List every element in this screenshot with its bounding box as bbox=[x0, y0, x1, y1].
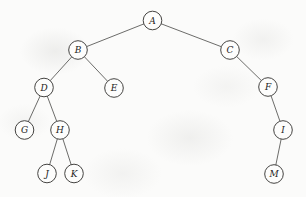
node-label-g: G bbox=[21, 125, 28, 135]
node-label-h: H bbox=[55, 125, 64, 135]
edge-layer bbox=[28, 24, 281, 165]
tree-node-c: C bbox=[221, 41, 240, 60]
tree-edge-b-d bbox=[50, 57, 72, 81]
tree-edge-d-h bbox=[47, 96, 56, 121]
tree-node-j: J bbox=[38, 164, 57, 183]
tree-edge-i-m bbox=[276, 139, 281, 165]
tree-edge-d-g bbox=[28, 96, 40, 122]
node-layer: ABCDEFGHIJKM bbox=[15, 11, 292, 183]
tree-node-b: B bbox=[69, 41, 88, 60]
tree-node-i: I bbox=[274, 121, 293, 140]
node-label-d: D bbox=[39, 83, 47, 93]
binary-tree-graphic: ABCDEFGHIJKM bbox=[0, 0, 306, 197]
tree-node-f: F bbox=[259, 78, 278, 97]
tree-edge-b-e bbox=[84, 57, 107, 82]
node-label-a: A bbox=[148, 16, 156, 26]
tree-edge-c-f bbox=[237, 56, 262, 80]
tree-edge-h-k bbox=[63, 139, 71, 165]
node-label-i: I bbox=[280, 125, 285, 135]
tree-node-m: M bbox=[265, 165, 284, 184]
node-label-e: E bbox=[110, 83, 118, 93]
tree-edge-a-c bbox=[161, 24, 221, 47]
tree-edge-a-b bbox=[87, 24, 144, 47]
tree-node-e: E bbox=[105, 79, 124, 98]
node-label-c: C bbox=[227, 45, 234, 55]
tree-node-g: G bbox=[15, 121, 34, 140]
node-label-b: B bbox=[74, 45, 82, 55]
tree-edge-f-i bbox=[271, 96, 280, 121]
tree-node-h: H bbox=[51, 121, 70, 140]
node-label-m: M bbox=[268, 169, 279, 179]
tree-edge-h-j bbox=[50, 139, 58, 165]
tree-node-k: K bbox=[65, 164, 84, 183]
tree-node-d: D bbox=[35, 78, 54, 97]
tree-diagram-figure: ABCDEFGHIJKM bbox=[0, 0, 306, 197]
node-label-f: F bbox=[264, 82, 272, 92]
tree-node-a: A bbox=[143, 11, 162, 30]
node-label-k: K bbox=[70, 169, 79, 179]
